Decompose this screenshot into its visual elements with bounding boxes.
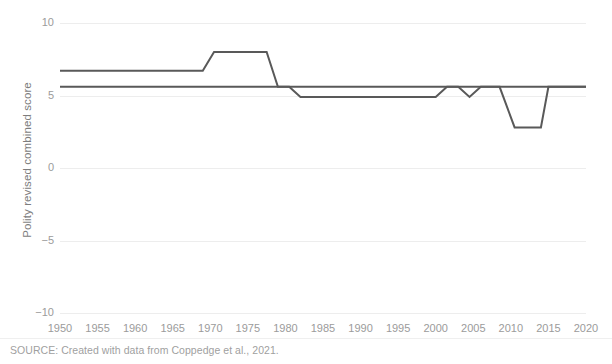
y-tick-label: 10 [14, 17, 54, 28]
series-lines [60, 23, 586, 313]
chart-figure: Polity revised combined score 10 5 0 −5 … [0, 0, 612, 364]
line-series-upper [60, 52, 586, 87]
y-axis-tick-labels: 10 5 0 −5 −10 [0, 23, 54, 313]
x-axis-tick-labels: 1950 1955 1960 1965 1970 1975 1980 1985 … [60, 322, 586, 336]
footer-divider [0, 338, 612, 339]
y-tick-label: −10 [14, 307, 54, 318]
y-tick-label: 0 [14, 162, 54, 173]
plot-area [60, 23, 586, 313]
x-tick-label: 2020 [564, 322, 608, 334]
y-tick-label: 5 [14, 90, 54, 101]
source-note: SOURCE: Created with data from Coppedge … [10, 344, 279, 356]
line-series-lower [60, 87, 586, 128]
gridline-minus10 [60, 313, 586, 314]
y-tick-label: −5 [14, 235, 54, 246]
